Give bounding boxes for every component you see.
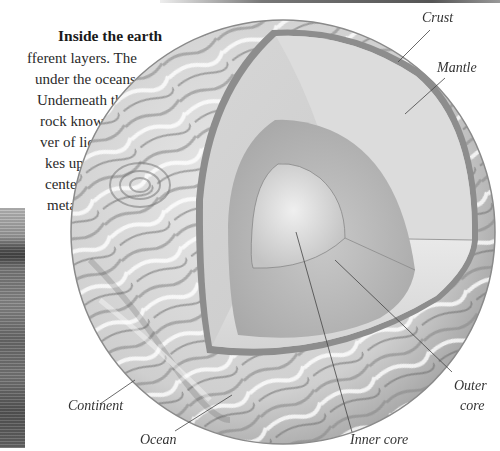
label-continent: Continent <box>68 398 123 414</box>
label-mantle: Mantle <box>437 60 477 76</box>
label-outer-core-line2: core <box>460 398 484 414</box>
earth-cross-section-diagram <box>0 0 500 451</box>
label-ocean: Ocean <box>140 432 177 448</box>
label-inner-core: Inner core <box>350 432 408 448</box>
label-outer-core: Outer <box>454 378 487 394</box>
label-crust: Crust <box>422 10 453 26</box>
crust-leader-line <box>398 30 430 62</box>
